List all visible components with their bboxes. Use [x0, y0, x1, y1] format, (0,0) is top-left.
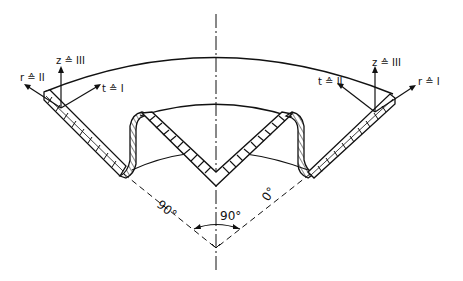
- left-z-axis-label: z ≙ III: [56, 55, 85, 66]
- right-coordinate-system: [337, 66, 416, 112]
- sandwich-shell-diagram: 90° 0° 90° z ≙ III r ≙ II t ≙ I z ≙ III …: [0, 0, 463, 281]
- left-r-axis-label: r ≙ II: [20, 72, 45, 83]
- angle-arrow-right: [233, 224, 240, 229]
- right-z-axis-label: z ≙ III: [372, 57, 401, 68]
- right-inner-wall: [286, 112, 314, 178]
- left-flange-section: [44, 90, 126, 176]
- right-t-axis-label: t ≙ II: [318, 76, 343, 87]
- angle-arrow-left: [194, 224, 201, 229]
- left-floor-arc: [132, 154, 186, 170]
- right-flange-section: [308, 94, 395, 178]
- included-angle-label: 90°: [220, 209, 241, 223]
- left-t-axis-label: t ≙ I: [102, 83, 124, 94]
- v-core-section: [142, 112, 292, 186]
- right-r-axis-label: r ≙ I: [418, 76, 440, 87]
